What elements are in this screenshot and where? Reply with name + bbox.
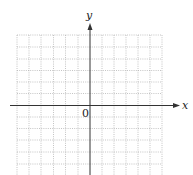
x-axis (10, 103, 180, 108)
coordinate-plane: x y 0 (0, 0, 193, 175)
y-axis-label: y (85, 9, 93, 22)
x-axis-label: x (182, 99, 189, 112)
y-axis-arrow-icon (88, 23, 93, 30)
x-axis-arrow-icon (173, 103, 180, 108)
origin-label: 0 (82, 107, 89, 120)
